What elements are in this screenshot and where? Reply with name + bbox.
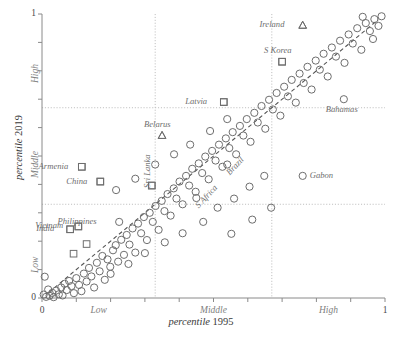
data-point <box>161 239 168 246</box>
data-point <box>312 57 319 64</box>
data-point <box>222 135 229 142</box>
data-point <box>99 252 106 259</box>
point-label-belarus: Belarus <box>144 119 171 129</box>
data-point <box>70 250 77 257</box>
data-point <box>200 218 207 225</box>
data-point <box>226 144 233 151</box>
data-point <box>189 165 196 172</box>
x-tick-label-middle: Middle <box>192 305 236 315</box>
data-point <box>112 186 119 193</box>
y-tick-label-low: Low <box>30 257 40 273</box>
data-point <box>80 270 87 277</box>
annotated-point-latvia <box>220 99 227 106</box>
data-point <box>224 115 231 122</box>
data-point <box>88 273 95 280</box>
y-tick-label-high: High <box>30 64 40 83</box>
data-point <box>378 13 385 20</box>
data-point <box>73 275 80 282</box>
data-point <box>107 270 114 277</box>
data-point <box>230 195 237 202</box>
y-tick-label-0: 0 <box>20 292 36 302</box>
data-point <box>308 86 315 93</box>
data-point <box>70 290 77 297</box>
data-point <box>93 259 100 266</box>
data-point <box>258 102 265 109</box>
data-point <box>123 231 130 238</box>
data-point <box>179 230 186 237</box>
data-point <box>132 249 139 256</box>
annotated-point-armenia <box>78 163 85 170</box>
data-point <box>300 79 307 86</box>
data-point <box>96 268 103 275</box>
data-point <box>316 66 323 73</box>
point-label-china: China <box>66 176 87 186</box>
data-point <box>149 218 156 225</box>
data-point <box>132 175 139 182</box>
data-point <box>161 207 168 214</box>
annotated-point-ireland <box>299 21 307 28</box>
reference-line <box>49 20 378 293</box>
data-point <box>273 89 280 96</box>
data-point <box>261 172 268 179</box>
data-point <box>243 115 250 122</box>
data-point <box>277 112 284 119</box>
data-point <box>262 125 269 132</box>
data-point <box>354 25 361 32</box>
data-point <box>366 27 373 34</box>
point-label-sri-lanka: Sri Lanka <box>142 154 152 188</box>
data-point <box>240 132 247 139</box>
x-tick-label-0: 0 <box>20 305 64 315</box>
data-point <box>155 226 162 233</box>
x-axis-title: percentile 1995 <box>0 316 402 327</box>
data-point <box>126 241 133 248</box>
data-point <box>202 153 209 160</box>
x-tick-label-low: Low <box>77 305 121 315</box>
data-point <box>186 182 193 189</box>
data-point <box>134 220 141 227</box>
data-point <box>247 138 254 145</box>
data-point <box>158 131 166 138</box>
data-point <box>304 63 311 70</box>
point-label-india: India <box>36 223 54 233</box>
y-tick-label-1: 1 <box>20 8 36 18</box>
data-point <box>341 59 348 66</box>
annotated-point-s-korea <box>279 58 286 65</box>
point-label-gabon: Gabon <box>310 170 333 180</box>
data-point <box>268 204 275 211</box>
annotated-point-gabon <box>299 172 306 179</box>
data-point <box>170 151 177 158</box>
data-point <box>173 195 180 202</box>
data-point <box>141 250 148 257</box>
data-point <box>101 276 108 283</box>
data-point <box>265 96 272 103</box>
annotated-point-bahamas <box>340 96 347 103</box>
annotated-point-china <box>97 178 104 185</box>
data-point <box>375 22 382 29</box>
data-point <box>167 212 174 219</box>
data-point <box>371 16 378 23</box>
data-point <box>67 226 74 233</box>
data-point <box>143 236 150 243</box>
annotated-point-philippines <box>116 218 123 225</box>
data-point <box>209 147 216 154</box>
data-point <box>97 178 104 185</box>
data-point <box>236 122 243 129</box>
data-point <box>320 50 327 57</box>
data-point <box>336 37 343 44</box>
data-point <box>78 288 85 295</box>
data-point <box>120 251 127 258</box>
data-point <box>85 264 92 271</box>
data-point <box>195 160 202 167</box>
data-point <box>288 76 295 83</box>
y-axis-title: percentile 2019 <box>13 78 24 218</box>
data-point <box>296 70 303 77</box>
data-point <box>292 99 299 106</box>
point-label-bahamas: Bahamas <box>326 104 358 114</box>
data-point <box>328 44 335 51</box>
data-point <box>115 258 122 265</box>
x-tick-label-high: High <box>306 305 350 315</box>
annotated-point-belarus <box>158 131 166 138</box>
data-point <box>214 204 221 211</box>
data-point <box>83 241 90 248</box>
data-point <box>199 169 206 176</box>
